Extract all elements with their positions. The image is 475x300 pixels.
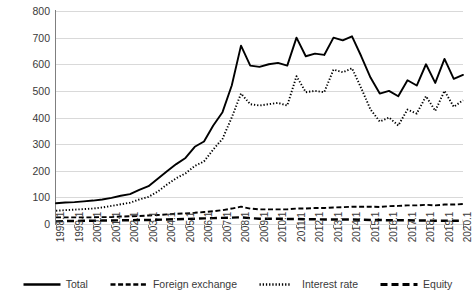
x-axis-tick: 2004.1	[162, 225, 172, 271]
x-axis-tick: 2014.1	[347, 225, 357, 271]
x-axis-tick: 2013.1	[329, 225, 339, 271]
series-line-total	[56, 36, 463, 203]
y-axis-tick-label: 0	[4, 219, 50, 229]
x-axis-tick: 2002.1	[125, 225, 135, 271]
legend-label: Total	[66, 279, 88, 290]
x-axis-tick: 2011.1	[292, 225, 302, 271]
x-axis-tick-label: 2018.1	[426, 212, 436, 243]
x-axis-tick-label: 2009.1	[260, 212, 270, 243]
x-axis-tick-label: 2000.1	[93, 212, 103, 243]
x-axis-tick-label: 2012.1	[315, 212, 325, 243]
x-axis-tick: 2016.1	[384, 225, 394, 271]
x-axis-tick-label: 2019.1	[445, 212, 455, 243]
x-axis-tick-label: 1999.1	[75, 212, 85, 243]
x-axis-tick: 2001.1	[107, 225, 117, 271]
legend-swatch-icon	[380, 279, 418, 290]
y-axis-tick-label: 400	[4, 113, 50, 123]
x-axis-tick-label: 2006.1	[204, 212, 214, 243]
plot-area	[56, 11, 463, 224]
x-axis-tick-label: 2020.1	[463, 212, 473, 243]
y-axis-tick-label: 500	[4, 86, 50, 96]
y-axis-tick-label: 100	[4, 192, 50, 202]
x-axis-tick: 2010.1	[273, 225, 283, 271]
x-axis-tick: 1998.1	[51, 225, 61, 271]
x-axis-tick-label: 2017.1	[408, 212, 418, 243]
x-axis-tick: 2008.1	[236, 225, 246, 271]
y-axis-tick-label: 200	[4, 166, 50, 176]
legend-swatch-icon	[23, 279, 61, 290]
x-axis-tick-label: 2010.1	[278, 212, 288, 243]
legend-swatch-icon	[259, 279, 297, 290]
x-axis-tick-label: 2014.1	[352, 212, 362, 243]
x-axis-tick: 2019.1	[440, 225, 450, 271]
x-axis-tick: 2000.1	[88, 225, 98, 271]
x-axis-tick: 2017.1	[403, 225, 413, 271]
series-lines	[56, 11, 463, 224]
x-axis-tick: 2005.1	[181, 225, 191, 271]
x-axis-tick-label: 2013.1	[334, 212, 344, 243]
x-axis-tick-label: 2004.1	[167, 212, 177, 243]
x-axis-tick-label: 2016.1	[389, 212, 399, 243]
chart-legend: TotalForeign exchangeInterest rateEquity	[0, 272, 475, 296]
x-axis-tick-label: 2001.1	[112, 212, 122, 243]
legend-item-foreign-exchange[interactable]: Foreign exchange	[110, 279, 237, 290]
y-axis-tick-labels: 8007006005004003002001000	[0, 0, 50, 240]
legend-item-equity[interactable]: Equity	[380, 279, 452, 290]
x-axis-tick: 2012.1	[310, 225, 320, 271]
x-axis-tick-label: 1998.1	[56, 212, 66, 243]
x-axis-tick-labels: 1998.11999.12000.12001.12002.12003.12004…	[56, 225, 463, 273]
x-axis-tick: 1999.1	[70, 225, 80, 271]
y-axis-tick-label: 300	[4, 139, 50, 149]
x-axis-tick-label: 2002.1	[130, 212, 140, 243]
x-axis-tick: 2003.1	[144, 225, 154, 271]
x-axis-tick-label: 2011.1	[297, 212, 307, 242]
y-axis-tick-label: 800	[4, 6, 50, 16]
legend-swatch-icon	[110, 279, 148, 290]
legend-item-total[interactable]: Total	[23, 279, 88, 290]
y-axis-tick-label: 600	[4, 59, 50, 69]
line-chart: 8007006005004003002001000 1998.11999.120…	[0, 0, 475, 300]
x-axis-tick: 2009.1	[255, 225, 265, 271]
x-axis-tick: 2020.1	[458, 225, 468, 271]
y-axis-tick-label: 700	[4, 33, 50, 43]
legend-item-interest-rate[interactable]: Interest rate	[259, 279, 358, 290]
x-axis-tick-label: 2003.1	[149, 212, 159, 243]
legend-label: Foreign exchange	[153, 279, 237, 290]
x-axis-tick: 2018.1	[421, 225, 431, 271]
legend-label: Equity	[423, 279, 452, 290]
x-axis-tick-label: 2008.1	[241, 212, 251, 243]
x-axis-tick: 2007.1	[218, 225, 228, 271]
x-axis-tick-label: 2005.1	[186, 212, 196, 243]
x-axis-tick-label: 2007.1	[223, 212, 233, 243]
x-axis-tick: 2015.1	[366, 225, 376, 271]
x-axis-tick: 2006.1	[199, 225, 209, 271]
legend-label: Interest rate	[302, 279, 358, 290]
x-axis-tick-label: 2015.1	[371, 212, 381, 243]
